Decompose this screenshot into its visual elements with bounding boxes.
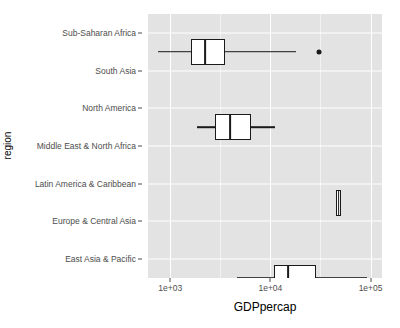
gridline-category — [148, 183, 382, 184]
y-tick-label-middle-east-north-africa: Middle East & North Africa — [37, 141, 136, 151]
outlier-point — [317, 49, 322, 54]
median-line — [338, 190, 340, 216]
y-tick-mark — [138, 146, 142, 147]
y-tick-label-europe-central-asia: Europe & Central Asia — [52, 216, 136, 226]
gridline-category — [148, 108, 382, 109]
y-axis-title-text: region — [3, 131, 14, 159]
box-iqr — [215, 114, 251, 140]
y-tick-mark — [138, 108, 142, 109]
boxplot-chart: region Sub-Saharan AfricaSouth AsiaNorth… — [0, 0, 400, 328]
y-tick-mark — [138, 221, 142, 222]
median-line — [229, 114, 231, 140]
box-iqr — [274, 265, 316, 278]
x-axis: 1e+031e+041e+05 — [148, 278, 382, 300]
x-tick-mark — [270, 278, 271, 282]
whisker-lower — [197, 126, 215, 128]
y-tick-mark — [138, 259, 142, 260]
whisker-lower — [158, 51, 191, 53]
x-tick-mark — [370, 278, 371, 282]
gridline-category — [148, 32, 382, 33]
gridline-category — [148, 259, 382, 260]
median-line — [287, 265, 289, 278]
y-tick-label-south-asia: South Asia — [95, 66, 136, 76]
x-tick-mark — [170, 278, 171, 282]
y-axis-tick-labels: Sub-Saharan AfricaSouth AsiaNorth Americ… — [14, 14, 142, 278]
y-tick-label-latin-america-caribbean: Latin America & Caribbean — [35, 179, 136, 189]
whisker-upper — [251, 126, 275, 128]
box-iqr — [191, 39, 225, 65]
x-axis-title: GDPpercap — [148, 300, 382, 314]
x-tick-label: 1e+03 — [158, 283, 182, 293]
gridline-category — [148, 221, 382, 222]
y-tick-mark — [138, 32, 142, 33]
y-tick-label-sub-saharan-africa: Sub-Saharan Africa — [62, 28, 136, 38]
y-tick-mark — [138, 183, 142, 184]
median-line — [204, 39, 206, 65]
y-tick-mark — [138, 70, 142, 71]
y-tick-label-north-america: North America — [82, 103, 136, 113]
plot-panel — [148, 14, 382, 278]
gridline-category — [148, 70, 382, 71]
whisker-upper — [225, 51, 297, 53]
gridline-category — [148, 146, 382, 147]
y-tick-label-east-asia-pacific: East Asia & Pacific — [65, 254, 136, 264]
x-tick-label: 1e+05 — [359, 283, 383, 293]
x-tick-label: 1e+04 — [258, 283, 282, 293]
